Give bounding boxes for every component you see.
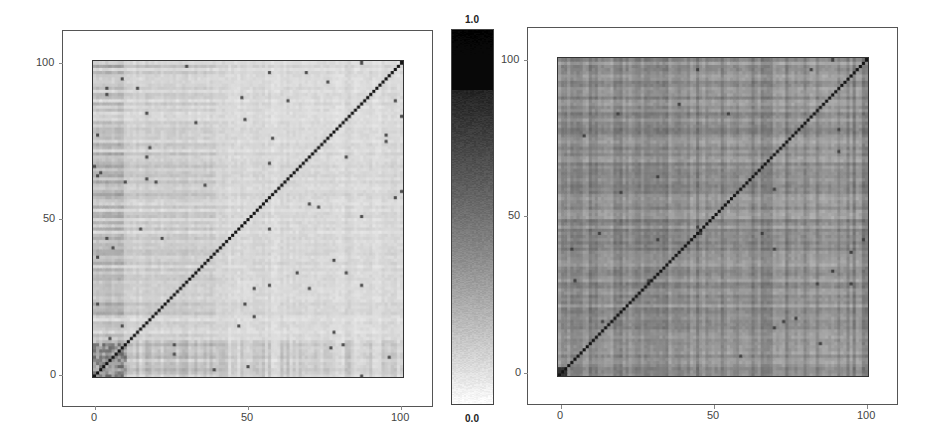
left-y-tick-mark-100 xyxy=(59,63,63,64)
colorbar-min-label: 0.0 xyxy=(452,413,492,424)
left-x-tick-mark-0 xyxy=(95,406,96,410)
colorbar-max-label: 1.0 xyxy=(452,14,492,25)
right-y-tick-mark-50 xyxy=(524,216,528,217)
colorbar-gradient xyxy=(452,30,493,404)
right-x-tick-50: 50 xyxy=(707,410,719,421)
right-x-tick-100: 100 xyxy=(857,410,875,421)
right-heatmap xyxy=(557,57,869,377)
left-x-tick-50: 50 xyxy=(241,412,253,423)
left-heatmap-canvas xyxy=(93,61,403,377)
left-x-tick-100: 100 xyxy=(391,412,409,423)
left-x-tick-mark-100 xyxy=(401,406,402,410)
colorbar xyxy=(451,29,494,405)
left-x-tick-0: 0 xyxy=(91,412,97,423)
right-y-tick-0: 0 xyxy=(515,367,521,378)
right-heatmap-canvas xyxy=(558,58,868,376)
left-y-tick-50: 50 xyxy=(43,213,55,224)
left-y-tick-0: 0 xyxy=(50,369,56,380)
right-y-tick-mark-0 xyxy=(524,373,528,374)
right-y-tick-50: 50 xyxy=(508,210,520,221)
left-y-tick-mark-0 xyxy=(59,375,63,376)
left-y-tick-100: 100 xyxy=(36,57,54,68)
right-y-tick-100: 100 xyxy=(501,54,519,65)
left-y-tick-mark-50 xyxy=(59,219,63,220)
left-x-tick-mark-50 xyxy=(248,406,249,410)
right-y-tick-mark-100 xyxy=(524,60,528,61)
left-heatmap xyxy=(92,60,404,378)
right-x-tick-0: 0 xyxy=(557,410,563,421)
